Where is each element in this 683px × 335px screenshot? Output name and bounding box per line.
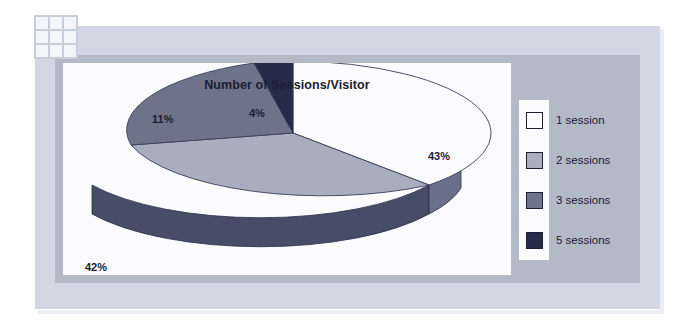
grid-cell (64, 17, 76, 29)
chart-title: Number of Sessions/Visitor (63, 78, 511, 92)
grid-cell (50, 45, 62, 57)
pie-wall-2-sessions (92, 185, 429, 247)
grid-cell (36, 31, 48, 43)
data-label-2-sessions: 42% (85, 261, 107, 273)
panel-shadow-bottom (38, 310, 663, 314)
legend-label: 3 sessions (556, 194, 610, 206)
legend-item-1-session[interactable]: 1 session (519, 100, 605, 140)
legend-item-2-sessions[interactable]: 2 sessions (519, 140, 610, 180)
grid-cell (50, 31, 62, 43)
legend-swatch-icon (526, 152, 543, 169)
panel-shadow-right (660, 29, 664, 314)
chart-legend: 1 session 2 sessions 3 sessions 5 sessio… (519, 100, 631, 260)
grid-icon (34, 15, 78, 59)
grid-cell (50, 17, 62, 29)
legend-label: 1 session (556, 114, 605, 126)
grid-cell (36, 17, 48, 29)
legend-item-5-sessions[interactable]: 5 sessions (519, 220, 610, 260)
data-label-3-sessions: 11% (152, 113, 173, 125)
grid-cell (36, 45, 48, 57)
data-label-5-sessions: 4% (249, 107, 265, 119)
grid-cell (64, 45, 76, 57)
legend-label: 2 sessions (556, 154, 610, 166)
data-label-1-session: 43% (428, 150, 450, 162)
legend-swatch-icon (526, 232, 543, 249)
legend-swatch-icon (526, 112, 543, 129)
legend-label: 5 sessions (556, 234, 610, 246)
grid-cell (64, 31, 76, 43)
legend-swatch-icon (526, 192, 543, 209)
pie-chart (63, 63, 511, 275)
legend-item-3-sessions[interactable]: 3 sessions (519, 180, 610, 220)
